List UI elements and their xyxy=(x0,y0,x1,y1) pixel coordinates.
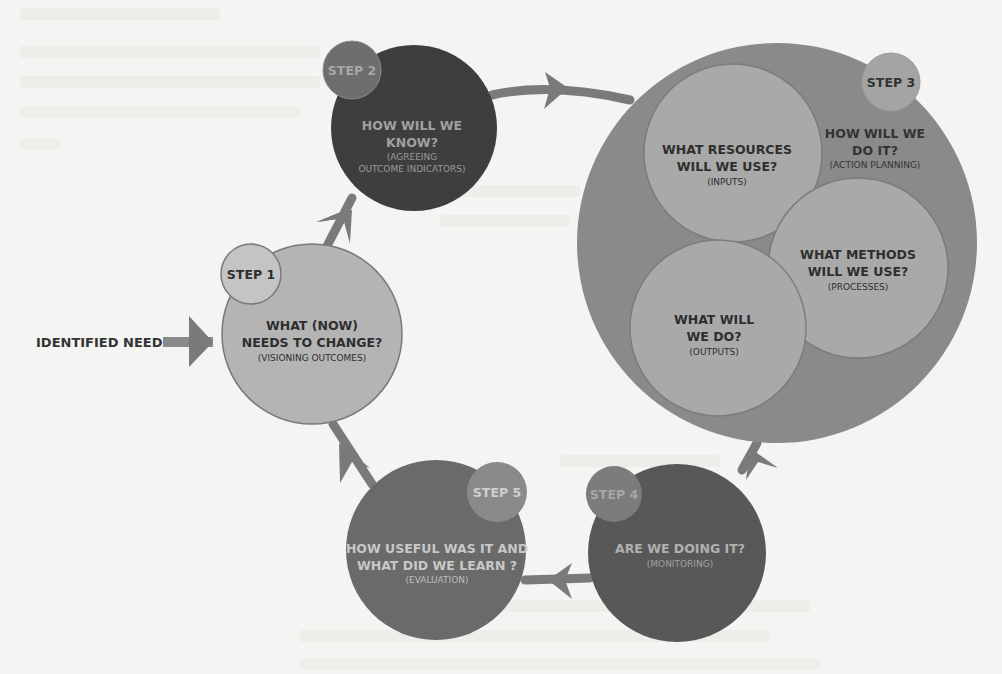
step4-badge: STEP 4 xyxy=(590,487,639,502)
step5-title-line2: WHAT DID WE LEARN ? xyxy=(357,558,517,573)
step1-group: STEP 1 WHAT (NOW) NEEDS TO CHANGE? (VISI… xyxy=(221,244,402,424)
outputs-title-line1: WHAT WILL xyxy=(674,312,754,327)
methods-title-line1: WHAT METHODS xyxy=(800,247,916,262)
methods-title-line2: WILL WE USE? xyxy=(808,264,908,279)
step2-badge: STEP 2 xyxy=(328,63,376,78)
identified-need-label: IDENTIFIED NEED xyxy=(36,335,163,350)
step1-title-line1: WHAT (NOW) xyxy=(266,318,358,333)
step1-title-line2: NEEDS TO CHANGE? xyxy=(242,335,383,350)
step4-subtitle: (MONITORING) xyxy=(647,559,713,569)
step2-subtitle-line1: (AGREEING xyxy=(387,152,437,162)
step4-title-line1: ARE WE DOING IT? xyxy=(615,541,745,556)
step3-title-line2: DO IT? xyxy=(852,143,898,158)
step3-subtitle: (ACTION PLANNING) xyxy=(830,160,921,170)
outputs-subtitle: (OUTPUTS) xyxy=(689,347,738,357)
step2-subtitle-line2: OUTCOME INDICATORS) xyxy=(358,164,465,174)
resources-title-line1: WHAT RESOURCES xyxy=(662,142,792,157)
step3-badge: STEP 3 xyxy=(867,75,915,90)
step5-group: STEP 5 HOW USEFUL WAS IT AND WHAT DID WE… xyxy=(346,460,528,640)
step1-subtitle: (VISIONING OUTCOMES) xyxy=(258,353,366,363)
step3-group: STEP 3 HOW WILL WE DO IT? (ACTION PLANNI… xyxy=(577,43,977,443)
arrowhead-icon xyxy=(746,448,778,480)
outputs-title-line2: WE DO? xyxy=(687,329,742,344)
resources-subtitle: (INPUTS) xyxy=(707,177,747,187)
step4-group: STEP 4 ARE WE DOING IT? (MONITORING) xyxy=(586,464,766,642)
methods-subtitle: (PROCESSES) xyxy=(828,282,889,292)
step5-subtitle: (EVALUATION) xyxy=(405,575,468,585)
step5-badge: STEP 5 xyxy=(473,485,521,500)
step3-outputs-circle xyxy=(630,240,806,416)
step2-title-line2: KNOW? xyxy=(386,135,438,150)
evaluation-cycle-diagram: IDENTIFIED NEED STEP 3 HOW WILL WE DO IT… xyxy=(0,0,1002,674)
step3-title-line1: HOW WILL WE xyxy=(825,126,925,141)
step2-title-line1: HOW WILL WE xyxy=(362,118,462,133)
step5-title-line1: HOW USEFUL WAS IT AND xyxy=(346,541,528,556)
identified-need-arrow xyxy=(163,316,213,367)
step1-badge: STEP 1 xyxy=(227,267,275,282)
resources-title-line2: WILL WE USE? xyxy=(677,159,777,174)
step2-group: STEP 2 HOW WILL WE KNOW? (AGREEING OUTCO… xyxy=(323,41,497,211)
